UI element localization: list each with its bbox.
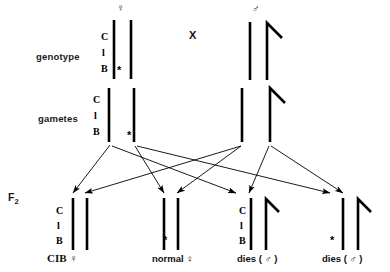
chromosome-and-arrow-layer: [0, 0, 390, 272]
arrow-maley-to-treated-male: [271, 146, 343, 193]
arrow-normalx-to-normal-female: [135, 146, 164, 193]
offspring3-y: [266, 199, 279, 250]
arrow-cibx-to-cib-female: [73, 145, 110, 193]
arrow-maley-to-cib-male: [249, 146, 269, 193]
gamete-chromosomes: [109, 88, 285, 142]
cib-cross-diagram: genotype gametes F2 X ♀ ♂ C l B * C l B …: [0, 0, 390, 272]
genotype-male-chromosomes: [250, 22, 282, 80]
offspring3-chromosomes: [251, 198, 279, 250]
offspring4-chromosomes: [343, 198, 371, 250]
genotype-female-chromosomes: [114, 20, 131, 79]
genotype-male-y: [267, 23, 282, 80]
offspring1-chromosomes: [73, 198, 87, 250]
offspring2-chromosomes: [164, 198, 178, 250]
arrow-normalx-to-treated-male: [137, 146, 330, 193]
offspring4-y: [358, 199, 371, 250]
gamete-y-male: [270, 88, 285, 142]
arrow-malex-to-normal-female: [177, 146, 241, 193]
